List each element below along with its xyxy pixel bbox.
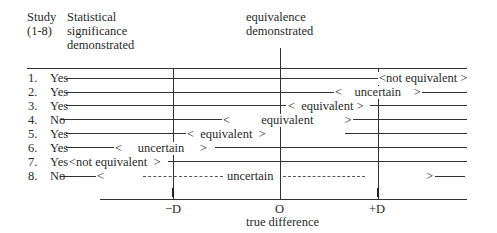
row-4-line-right bbox=[337, 119, 467, 120]
row-7-interval: <not equivalent > bbox=[68, 156, 162, 169]
row-5-line-right bbox=[345, 133, 467, 134]
header-equivalence: equivalence demonstrated bbox=[246, 10, 313, 38]
header-sig-line3: demonstrated bbox=[67, 38, 134, 52]
header-study: Study (1-8) bbox=[27, 10, 56, 38]
row-8-sig: No bbox=[49, 170, 66, 183]
row-6-line-right bbox=[215, 147, 467, 148]
row-3-interval: < equivalent > bbox=[287, 100, 365, 113]
header-study-line2: (1-8) bbox=[27, 24, 56, 38]
row-1-num: 1. bbox=[27, 72, 38, 85]
axis-title: true difference bbox=[246, 216, 319, 229]
row-1-line bbox=[66, 78, 378, 79]
row-6-line bbox=[66, 147, 114, 148]
row-7-sig: Yes bbox=[49, 156, 69, 169]
row-3-line bbox=[66, 105, 286, 106]
row-2-line bbox=[66, 92, 334, 93]
row-6-sig: Yes bbox=[49, 142, 69, 155]
row-2-interval: < uncertain > bbox=[334, 86, 422, 99]
header-eq-line1: equivalence bbox=[246, 10, 313, 24]
row-5-line bbox=[66, 133, 186, 134]
row-6-interval: < uncertain > bbox=[114, 142, 208, 155]
axis-label-plus-d: +D bbox=[369, 203, 385, 216]
row-4-interval: < equivalent > bbox=[222, 114, 353, 127]
row-1-sig: Yes bbox=[49, 72, 69, 85]
row-4-line bbox=[60, 119, 222, 120]
row-2-num: 2. bbox=[27, 86, 38, 99]
top-border bbox=[27, 68, 467, 69]
header-eq-line2: demonstrated bbox=[246, 24, 313, 38]
row-7-num: 7. bbox=[27, 156, 38, 169]
row-5-interval: < equivalent > bbox=[186, 128, 267, 141]
tick-plus-d bbox=[377, 188, 379, 197]
row-8-dashed-right bbox=[283, 176, 365, 177]
row-8-line-right bbox=[435, 176, 465, 177]
row-8-left-bracket: < bbox=[96, 170, 105, 183]
header-sig-line1: Statistical bbox=[67, 10, 134, 24]
row-1-interval: <not equivalent > bbox=[378, 72, 468, 85]
row-5-num: 5. bbox=[27, 128, 38, 141]
row-8-dashed bbox=[143, 176, 223, 177]
row-3-line-right bbox=[370, 105, 467, 106]
row-4-num: 4. bbox=[27, 114, 38, 127]
header-significance: Statistical significance demonstrated bbox=[67, 10, 134, 52]
row-2-sig: Yes bbox=[49, 86, 69, 99]
row-7-line-right bbox=[168, 161, 467, 162]
header-study-line1: Study bbox=[27, 10, 56, 24]
row-5-sig: Yes bbox=[49, 128, 69, 141]
row-4-sig: No bbox=[49, 114, 66, 127]
row-6-num: 6. bbox=[27, 142, 38, 155]
header-sig-line2: significance bbox=[67, 24, 134, 38]
tick-minus-d bbox=[172, 188, 174, 197]
axis-label-minus-d: −D bbox=[165, 203, 181, 216]
row-8-right-bracket: > bbox=[425, 170, 434, 183]
x-axis bbox=[100, 199, 467, 200]
row-8-num: 8. bbox=[27, 170, 38, 183]
row-3-num: 3. bbox=[27, 100, 38, 113]
row-3-sig: Yes bbox=[49, 100, 69, 113]
row-8-interval: uncertain bbox=[226, 170, 275, 183]
